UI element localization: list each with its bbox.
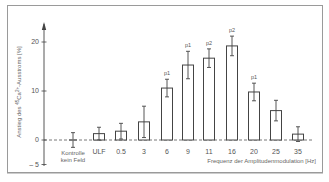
y-tick-label: 10 (31, 87, 39, 94)
bar-chart: – 501020Anstieg des 45Ca2+-Ausstroms [%]… (0, 0, 329, 182)
x-tick-label: 20 (250, 148, 258, 155)
y-tick-label: – 5 (29, 161, 39, 168)
x-tick-label: kein Feld (61, 157, 85, 163)
x-tick-label: 25 (272, 148, 280, 155)
significance-label: p1 (185, 42, 191, 48)
significance-label: p2 (229, 27, 235, 33)
x-tick-label: 9 (186, 148, 190, 155)
y-tick-label: 0 (35, 136, 39, 143)
x-tick-label: 16 (228, 148, 236, 155)
x-tick-label: Kontrolle (61, 150, 85, 156)
x-tick-label: ULF (92, 148, 105, 155)
x-tick-label: 6 (165, 148, 169, 155)
significance-label: p1 (251, 74, 257, 80)
x-axis-label: Frequenz der Amplitudenmodulation [Hz] (207, 158, 316, 164)
y-tick-label: 20 (31, 38, 39, 45)
x-tick-label: 35 (294, 148, 302, 155)
significance-label: p1 (164, 70, 170, 76)
y-axis-label: Anstieg des 45Ca2+-Ausstroms [%] (15, 46, 22, 138)
x-tick-label: 0.5 (116, 148, 126, 155)
bar-11 (204, 58, 215, 140)
x-tick-label: 3 (142, 148, 146, 155)
x-tick-label: 11 (205, 148, 212, 155)
significance-label: p2 (206, 40, 212, 46)
bar-16 (227, 46, 238, 140)
y-axis-arrow-icon (42, 22, 46, 30)
